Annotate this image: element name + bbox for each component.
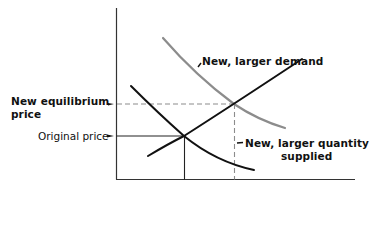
new-quantity-pointer-icon xyxy=(237,143,243,144)
new-equilibrium-price-label-line1: New equilibrium xyxy=(11,95,109,107)
new-quantity-supplied-label-line2: supplied xyxy=(281,150,332,162)
original-price-label: Original price xyxy=(38,130,109,142)
new-demand-pointer-icon xyxy=(198,63,201,67)
original-demand-curve xyxy=(131,86,254,170)
new-quantity-supplied-label-line1: New, larger quantity xyxy=(245,137,369,149)
new-equilibrium-price-label-line2: price xyxy=(11,108,41,120)
new-demand-label: New, larger demand xyxy=(202,55,323,67)
